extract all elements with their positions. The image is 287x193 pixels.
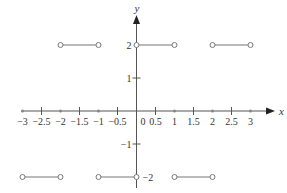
open-endpoint-icon bbox=[58, 175, 63, 180]
x-tick-label: −2 bbox=[55, 116, 66, 127]
x-tick-dot bbox=[211, 109, 214, 112]
open-endpoint-icon bbox=[210, 43, 215, 48]
x-tick-label: 0.5 bbox=[149, 116, 162, 127]
y-arrow-icon bbox=[133, 15, 140, 24]
open-endpoint-icon bbox=[210, 175, 215, 180]
open-endpoint-icon bbox=[20, 175, 25, 180]
x-tick-label: 0 bbox=[141, 116, 146, 127]
x-tick-label: 2.5 bbox=[225, 116, 238, 127]
x-tick-dot bbox=[59, 109, 62, 112]
x-arrow-icon bbox=[266, 108, 275, 115]
open-endpoint-icon bbox=[248, 43, 253, 48]
chart: −3−2.5−2−1.5−1−0.500.511.522.5321−1−2xy bbox=[0, 0, 287, 193]
y-tick-label: −2 bbox=[143, 172, 154, 183]
y-axis-label: y bbox=[134, 2, 140, 14]
x-tick-label: −3 bbox=[17, 116, 28, 127]
open-endpoint-icon bbox=[96, 43, 101, 48]
x-tick-dot bbox=[97, 109, 100, 112]
open-endpoint-icon bbox=[134, 43, 139, 48]
y-tick-label: −1 bbox=[121, 139, 132, 150]
open-endpoint-icon bbox=[172, 43, 177, 48]
open-endpoint-icon bbox=[134, 175, 139, 180]
x-tick-dot bbox=[249, 109, 252, 112]
x-tick-label: −1.5 bbox=[70, 116, 88, 127]
x-tick-label: −2.5 bbox=[32, 116, 50, 127]
open-endpoint-icon bbox=[96, 175, 101, 180]
y-tick-label: 1 bbox=[127, 73, 132, 84]
x-tick-label: 1 bbox=[172, 116, 177, 127]
x-tick-label: −0.5 bbox=[108, 116, 126, 127]
y-tick-label: 2 bbox=[127, 40, 132, 51]
labels: −3−2.5−2−1.5−1−0.500.511.522.5321−1−2xy bbox=[17, 2, 284, 183]
x-axis-label: x bbox=[278, 105, 284, 117]
open-endpoint-icon bbox=[172, 175, 177, 180]
x-tick-label: −1 bbox=[93, 116, 104, 127]
x-tick-label: 3 bbox=[248, 116, 253, 127]
x-tick-dot bbox=[21, 109, 24, 112]
x-tick-label: 1.5 bbox=[187, 116, 200, 127]
axes bbox=[21, 15, 275, 188]
x-tick-label: 2 bbox=[210, 116, 215, 127]
x-tick-dot bbox=[173, 109, 176, 112]
open-endpoint-icon bbox=[58, 43, 63, 48]
